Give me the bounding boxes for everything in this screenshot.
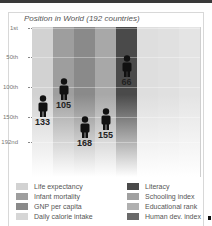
y-tick-label: 192nd — [1, 139, 18, 145]
legend-label: Literacy — [145, 183, 170, 190]
y-tick-label: 100th — [3, 84, 18, 90]
legend-swatch — [16, 183, 28, 190]
person-icon — [99, 108, 113, 130]
legend-item: Infant mortality — [16, 193, 80, 200]
rank-label: 66 — [121, 77, 131, 87]
legend-label: Educational rank — [145, 203, 197, 210]
gridline — [32, 142, 200, 143]
column-schooling-index — [137, 27, 159, 177]
column-gnp-per-capita — [74, 27, 96, 177]
column-daily-calorie-intake — [95, 27, 117, 177]
legend-swatch — [16, 213, 28, 220]
gridline — [32, 57, 200, 58]
legend-item: Literacy — [127, 183, 170, 190]
column-educational-rank — [158, 27, 180, 177]
gridline — [32, 28, 200, 29]
rank-label: 155 — [98, 130, 113, 140]
plot-area: 1st50th100th150th192nd13310516815566 — [32, 27, 200, 177]
legend-label: GNP per capita — [34, 203, 82, 210]
legend-swatch — [16, 193, 28, 200]
legend-item: Daily calorie intake — [16, 213, 93, 220]
legend-label: Infant mortality — [34, 193, 80, 200]
person-icon — [120, 55, 134, 77]
legend-label: Schooling index — [145, 193, 194, 200]
y-tick-label: 1st — [10, 25, 18, 31]
column-human-dev-index — [179, 27, 201, 177]
legend-swatch — [127, 183, 139, 190]
y-tick-label: 150th — [3, 114, 18, 120]
legend-swatch — [127, 213, 139, 220]
legend-item: GNP per capita — [16, 203, 82, 210]
top-bar — [0, 0, 212, 3]
rank-label: 168 — [77, 138, 92, 148]
legend-swatch — [127, 193, 139, 200]
legend-item: Life expectancy — [16, 183, 83, 190]
rank-label: 105 — [56, 100, 71, 110]
legend-item: Schooling index — [127, 193, 194, 200]
legend-label: Human dev. index — [145, 213, 201, 220]
legend-label: Daily calorie intake — [34, 213, 93, 220]
legend-label: Life expectancy — [34, 183, 83, 190]
person-icon — [57, 78, 71, 100]
legend-swatch — [127, 203, 139, 210]
gridline — [32, 117, 200, 118]
legend-item: Human dev. index — [127, 213, 201, 220]
chart-title: Position in World (192 countries) — [24, 14, 140, 23]
rank-label: 133 — [35, 117, 50, 127]
person-icon — [78, 116, 92, 138]
person-icon — [36, 95, 50, 117]
y-tick-label: 50th — [6, 54, 18, 60]
column-literacy — [116, 27, 138, 177]
corner-marker — [208, 216, 211, 220]
legend-swatch — [16, 203, 28, 210]
legend-item: Educational rank — [127, 203, 197, 210]
